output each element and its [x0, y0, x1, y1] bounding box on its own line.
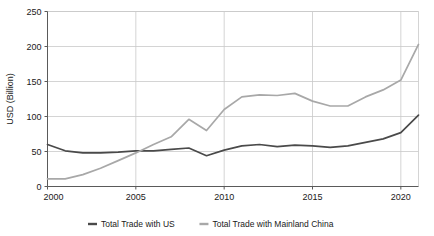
x-tick-label: 2020: [391, 192, 411, 202]
series-line-us: [48, 115, 419, 156]
x-tick-label: 2010: [214, 192, 234, 202]
x-axis-tick-labels: 20002005201020152020: [44, 192, 411, 202]
y-tick-label: 50: [31, 147, 41, 157]
data-series-layer: [48, 44, 419, 178]
y-tick-label: 100: [26, 112, 41, 122]
y-axis-title: USD (Billion): [5, 73, 15, 125]
chart-container: 050100150200250 20002005201020152020 USD…: [0, 0, 434, 236]
chart-legend: Total Trade with USTotal Trade with Main…: [88, 219, 334, 229]
y-tick-label: 0: [36, 182, 41, 192]
y-axis-title-text: USD (Billion): [5, 73, 15, 125]
series-line-china: [48, 44, 419, 178]
legend-label: Total Trade with US: [101, 219, 175, 229]
y-tick-label: 150: [26, 77, 41, 87]
line-chart: 050100150200250 20002005201020152020 USD…: [0, 0, 434, 236]
legend-label: Total Trade with Mainland China: [212, 219, 333, 229]
y-tick-label: 200: [26, 42, 41, 52]
axis-lines: [45, 12, 419, 190]
y-tick-label: 250: [26, 7, 41, 17]
x-tick-label: 2005: [126, 192, 146, 202]
x-tick-label: 2000: [44, 192, 64, 202]
x-tick-label: 2015: [302, 192, 322, 202]
y-axis-tick-labels: 050100150200250: [26, 7, 41, 192]
